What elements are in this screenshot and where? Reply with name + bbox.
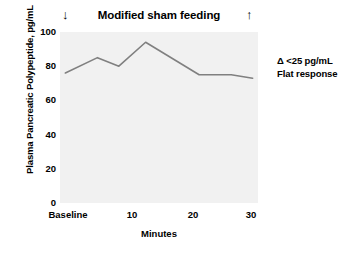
x-axis-tick-labels: Baseline 10 20 30 [0,209,363,223]
x-tick-label: 30 [236,209,266,220]
plot-area [60,32,258,203]
x-axis-title: Minutes [60,228,258,239]
y-axis-tick-labels: 100 80 60 40 20 0 [26,32,56,203]
y-tick-label: 100 [30,27,56,37]
x-tick-label: 10 [117,209,147,220]
y-tick-label: 80 [30,61,56,71]
x-tick-label: 20 [178,209,208,220]
annotation-delta-line: Δ <25 pg/mL [277,55,361,68]
chart-figure: ↓ Modified sham feeding ↑ Plasma Pancrea… [0,0,363,253]
line-series-svg [60,32,258,203]
data-line [65,42,252,78]
y-tick-label: 60 [30,95,56,105]
y-tick-label: 40 [30,130,56,140]
chart-title: Modified sham feeding [60,8,258,22]
chart-annotation: Δ <25 pg/mL Flat response [277,55,361,80]
x-tick-label: Baseline [38,209,98,220]
chart-title-band: ↓ Modified sham feeding ↑ [60,8,258,28]
annotation-response-line: Flat response [277,68,361,81]
up-arrow-icon: ↑ [246,8,253,22]
y-tick-label: 0 [30,198,56,208]
y-tick-label: 20 [30,164,56,174]
